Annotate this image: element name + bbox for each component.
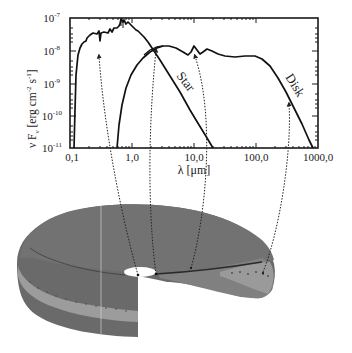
svg-text:100,0: 100,0 — [244, 151, 269, 163]
svg-text:10-9: 10-9 — [43, 77, 60, 90]
disk-label: Disk — [282, 71, 308, 100]
svg-text:10-8: 10-8 — [43, 44, 60, 57]
y-axis-label: ν Fν [erg cm-2 s-1] — [25, 69, 41, 148]
sed-figure: Star Disk 10-7 10-8 10-9 10-10 10-11 0,1… — [0, 0, 352, 353]
svg-text:10,0: 10,0 — [184, 151, 204, 163]
disk-curve — [117, 46, 313, 148]
x-axis-label: λ [μm] — [178, 163, 211, 177]
svg-text:10-7: 10-7 — [43, 11, 60, 24]
x-tick-labels: 0,1 1,0 10,0 100,0 1000,0 — [65, 151, 334, 163]
svg-text:0,1: 0,1 — [65, 151, 79, 163]
svg-text:1,0: 1,0 — [125, 151, 139, 163]
disk-central-cavity — [124, 267, 156, 277]
disk-top-surface — [20, 204, 274, 274]
svg-text:10-11: 10-11 — [42, 141, 63, 154]
sed-plot: Star Disk 10-7 10-8 10-9 10-10 10-11 0,1… — [25, 11, 334, 177]
disk-illustration — [17, 204, 352, 345]
star-label: Star — [174, 69, 199, 95]
y-tick-labels: 10-7 10-8 10-9 10-10 10-11 — [42, 11, 63, 154]
svg-text:1000,0: 1000,0 — [303, 151, 334, 163]
svg-text:10-10: 10-10 — [42, 109, 63, 122]
